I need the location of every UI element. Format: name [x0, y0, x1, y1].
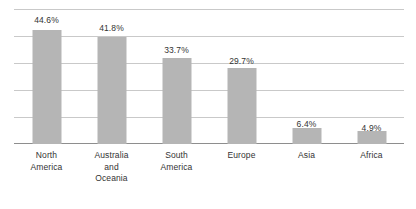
category-label-line: and — [79, 162, 144, 174]
bar-group-africa: 4.9% — [339, 9, 404, 144]
category-label-line: Oceania — [79, 173, 144, 185]
category-label-north-america: North America — [14, 150, 79, 173]
bars-layer: 44.6% 41.8% 33.7% 29.7% 6.4% 4.9% — [14, 9, 404, 144]
category-axis: North America Australia and Oceania Sout… — [14, 150, 404, 205]
bar-rect[interactable] — [32, 30, 61, 144]
bar-chart-figure: 44.6% 41.8% 33.7% 29.7% 6.4% 4.9% North — [0, 0, 416, 209]
bar-group-asia: 6.4% — [274, 9, 339, 144]
bar-group-australia-and-oceania: 41.8% — [79, 9, 144, 144]
category-label-africa: Africa — [339, 150, 404, 162]
bar-rect[interactable] — [292, 128, 321, 144]
bar-value-label: 44.6% — [34, 15, 59, 25]
bar-group-north-america: 44.6% — [14, 9, 79, 144]
bar-group-south-america: 33.7% — [144, 9, 209, 144]
bar-value-label: 29.7% — [229, 56, 254, 66]
bar-rect[interactable] — [97, 37, 126, 144]
category-label-europe: Europe — [209, 150, 274, 162]
category-label-line: Asia — [274, 150, 339, 162]
bar-rect[interactable] — [357, 131, 386, 144]
category-label-line: Europe — [209, 150, 274, 162]
category-label-south-america: South America — [144, 150, 209, 173]
category-label-line: South — [144, 150, 209, 162]
category-label-line: North — [14, 150, 79, 162]
bar-value-label: 33.7% — [164, 45, 189, 55]
bar-rect[interactable] — [227, 68, 256, 144]
category-label-asia: Asia — [274, 150, 339, 162]
category-label-line: America — [14, 162, 79, 174]
bar-value-label: 41.8% — [99, 23, 124, 33]
bar-group-europe: 29.7% — [209, 9, 274, 144]
category-label-line: Australia — [79, 150, 144, 162]
bar-rect[interactable] — [162, 58, 191, 144]
category-label-australia-and-oceania: Australia and Oceania — [79, 150, 144, 185]
category-label-line: Africa — [339, 150, 404, 162]
category-label-line: America — [144, 162, 209, 174]
